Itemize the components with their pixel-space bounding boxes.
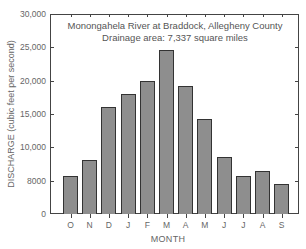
y-tick [50, 81, 54, 82]
bar-10 [255, 171, 270, 214]
y-tick-right [295, 81, 299, 82]
y-tick-right [295, 181, 299, 182]
y-tick [50, 147, 54, 148]
top-tick [109, 14, 110, 17]
x-tick [282, 214, 283, 218]
bar-6 [178, 86, 193, 214]
x-tick-label: A [260, 220, 266, 230]
y-tick-label: 25,000 [20, 42, 46, 52]
top-tick [186, 14, 187, 17]
y-tick-label: 10,000 [20, 142, 46, 152]
top-tick [263, 14, 264, 17]
x-tick-label: D [106, 220, 112, 230]
x-tick-label: F [145, 220, 150, 230]
top-tick [224, 14, 225, 17]
y-tick-label: 8000 [27, 176, 46, 186]
y-tick-right [295, 147, 299, 148]
x-tick-label: J [241, 220, 245, 230]
x-tick [263, 214, 264, 218]
x-tick-label: A [183, 220, 189, 230]
y-tick [50, 114, 54, 115]
y-axis-title: DISCHARGE (cubic feet per second) [6, 40, 16, 188]
x-tick [224, 214, 225, 218]
x-tick-label: S [279, 220, 285, 230]
discharge-bar-chart: Monongahela River at Braddock, Allegheny… [0, 0, 306, 249]
x-tick-label: J [126, 220, 130, 230]
bar-0 [63, 176, 78, 214]
bar-11 [274, 184, 289, 214]
top-tick [282, 14, 283, 17]
bar-1 [82, 160, 97, 214]
x-tick [128, 214, 129, 218]
y-tick-right [295, 114, 299, 115]
top-tick [90, 14, 91, 17]
y-tick-right [295, 47, 299, 48]
bar-8 [217, 157, 232, 214]
bar-3 [121, 94, 136, 214]
top-tick [205, 14, 206, 17]
y-tick-label: 20,000 [20, 76, 46, 86]
top-tick [147, 14, 148, 17]
x-tick [243, 214, 244, 218]
x-axis-title: MONTH [151, 234, 186, 244]
bar-4 [140, 81, 155, 214]
x-tick [186, 214, 187, 218]
x-tick [205, 214, 206, 218]
y-tick-label: 0 [41, 209, 46, 219]
x-tick-label: N [87, 220, 93, 230]
y-tick [50, 47, 54, 48]
top-tick [71, 14, 72, 17]
top-tick [128, 14, 129, 17]
x-tick-label: O [67, 220, 74, 230]
x-tick-label: M [163, 220, 170, 230]
x-tick-label: M [201, 220, 208, 230]
x-tick [147, 214, 148, 218]
y-tick-label: 30,000 [20, 9, 46, 19]
x-tick [167, 214, 168, 218]
x-tick [90, 214, 91, 218]
top-tick [167, 14, 168, 17]
top-tick [243, 14, 244, 17]
y-tick [50, 181, 54, 182]
bar-7 [197, 119, 212, 214]
x-tick [71, 214, 72, 218]
x-tick [109, 214, 110, 218]
bar-5 [159, 50, 174, 214]
y-tick-label: 15,000 [20, 109, 46, 119]
bar-9 [236, 176, 251, 214]
x-tick-label: J [222, 220, 226, 230]
bar-2 [101, 107, 116, 214]
